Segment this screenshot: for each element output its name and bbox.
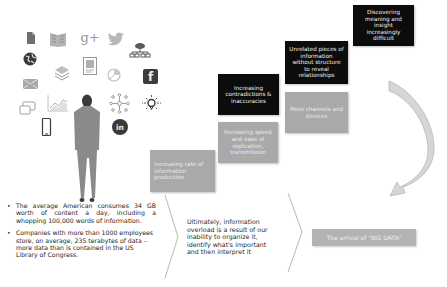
chevron-arrow-icon (285, 190, 305, 275)
summary-text: Ultimately, information overload is a re… (187, 218, 279, 256)
chevron-arrow-icon (162, 192, 182, 282)
big-data-conclusion: The arrival of "BIG DATA" (312, 229, 416, 246)
